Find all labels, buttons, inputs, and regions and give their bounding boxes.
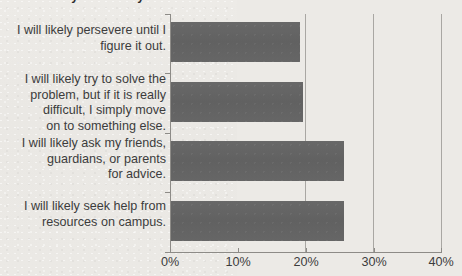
x-tick-40 — [441, 248, 442, 253]
y-tick-2 — [165, 73, 171, 74]
category-label-4: I will likely seek help from resources o… — [4, 199, 170, 230]
y-tick-3 — [165, 133, 171, 134]
category-label-4-line-2: resources on campus. — [4, 215, 166, 231]
x-tick-20 — [306, 248, 307, 253]
category-label-1-line-2: figure it out. — [4, 39, 166, 55]
bar-1 — [171, 22, 300, 62]
category-label-1: I will likely persevere until I figure i… — [4, 23, 170, 54]
category-label-2-line-2: problem, but if it is really — [4, 88, 166, 104]
x-axis-label-20: 20% — [284, 255, 328, 269]
bar-chart: ...and what you're likely to do... I wil… — [0, 0, 237, 276]
category-label-2-line-4: on to something else. — [4, 119, 166, 135]
x-tick-10 — [238, 248, 239, 253]
x-axis-label-10: 10% — [216, 255, 260, 269]
category-label-3-line-3: for advice. — [4, 167, 166, 183]
gridline-40 — [441, 14, 442, 252]
category-label-2: I will likely try to solve the problem, … — [4, 72, 170, 134]
category-label-3-line-2: guardians, or parents — [4, 152, 166, 168]
category-label-2-line-3: difficult, I simply move — [4, 103, 166, 119]
category-axis-labels: I will likely persevere until I figure i… — [0, 0, 170, 276]
y-tick-5 — [165, 252, 171, 253]
category-label-2-line-1: I will likely try to solve the — [4, 72, 166, 88]
x-axis-label-0: 0% — [148, 255, 192, 269]
x-tick-30 — [374, 248, 375, 253]
category-label-4-line-1: I will likely seek help from — [4, 199, 166, 215]
bar-3 — [171, 141, 344, 181]
gridline-30 — [373, 14, 374, 252]
category-label-1-line-1: I will likely persevere until I — [4, 23, 166, 39]
y-tick-1 — [165, 14, 171, 15]
y-tick-4 — [165, 192, 171, 193]
category-label-3-line-1: I will likely ask my friends, — [4, 136, 166, 152]
category-label-3: I will likely ask my friends, guardians,… — [4, 136, 170, 183]
x-axis-label-40: 40% — [419, 255, 462, 269]
x-axis-label-30: 30% — [352, 255, 396, 269]
bar-2 — [171, 82, 303, 122]
bar-4 — [171, 201, 344, 241]
